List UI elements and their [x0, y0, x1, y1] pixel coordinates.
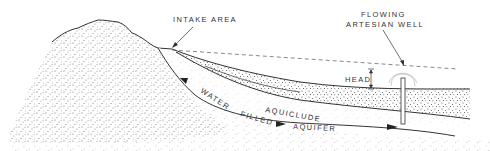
intake-area-label: INTAKE AREA: [173, 15, 237, 24]
artesian-well-diagram: INTAKE AREA FLOWING ARTESIAN WELL HEAD A…: [0, 0, 490, 151]
well-pointer-arrow: [383, 30, 403, 63]
intake-pointer-arrow: [174, 27, 193, 46]
well-casing: [401, 78, 405, 124]
artesian-well-label: ARTESIAN WELL: [346, 20, 424, 29]
head-label: HEAD: [345, 75, 371, 84]
well-pointer-arrowhead: [400, 60, 404, 66]
flowing-label: FLOWING: [361, 10, 406, 19]
